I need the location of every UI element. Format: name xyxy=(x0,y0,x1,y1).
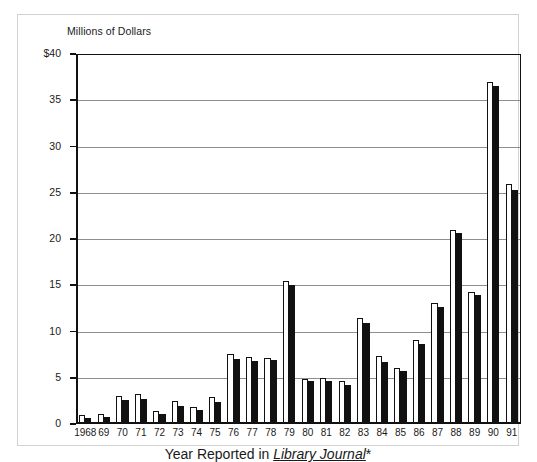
x-axis-tick-label: 81 xyxy=(321,427,332,438)
y-axis-tick xyxy=(70,53,76,55)
y-axis-tick-label: 20 xyxy=(49,232,61,244)
x-axis-tick-label: 83 xyxy=(358,427,369,438)
bar-group xyxy=(116,396,128,424)
x-axis-tick-label: 70 xyxy=(117,427,128,438)
y-axis-tick-label: 0 xyxy=(55,417,61,429)
bar-dark xyxy=(419,344,425,424)
bar-group xyxy=(413,340,425,424)
bar-group xyxy=(450,230,462,424)
bar-dark xyxy=(122,400,128,424)
bar-group xyxy=(209,397,221,424)
y-axis-tick xyxy=(70,238,76,240)
bar-group xyxy=(246,357,258,424)
bar-dark xyxy=(326,381,332,424)
bar-dark xyxy=(252,361,258,424)
x-axis-title-suffix: * xyxy=(366,446,371,462)
y-axis-tick xyxy=(70,377,76,379)
x-axis-tick-label: 80 xyxy=(302,427,313,438)
x-axis-tick-label: 1968 xyxy=(74,427,96,438)
bar-group xyxy=(172,401,184,424)
bar-group xyxy=(264,358,276,424)
bar-dark xyxy=(512,190,518,424)
bar-group xyxy=(227,354,239,424)
y-axis-tick xyxy=(70,146,76,148)
x-axis-tick-label: 91 xyxy=(506,427,517,438)
x-axis-tick-label: 88 xyxy=(451,427,462,438)
bar-dark xyxy=(382,362,388,424)
x-axis-tick-label: 74 xyxy=(191,427,202,438)
x-axis-title-journal: Library Journal xyxy=(273,446,366,462)
x-axis-tick-label: 77 xyxy=(247,427,258,438)
bar-group xyxy=(339,381,351,424)
x-axis-title: Year Reported in Library Journal* xyxy=(18,446,518,462)
x-axis-tick-labels: 1968697071727374757677787980818283848586… xyxy=(76,427,521,443)
x-axis-tick-label: 71 xyxy=(135,427,146,438)
y-axis-tick xyxy=(70,192,76,194)
y-axis-title: Millions of Dollars xyxy=(67,25,151,37)
bar-group xyxy=(320,378,332,424)
x-axis-tick-label: 73 xyxy=(172,427,183,438)
bar-group xyxy=(394,368,406,424)
bar-group xyxy=(487,82,499,424)
bar-series-container xyxy=(76,54,521,424)
x-axis-tick-label: 75 xyxy=(210,427,221,438)
bar-group xyxy=(376,356,388,424)
y-axis-tick-label: 25 xyxy=(49,186,61,198)
x-axis-tick-label: 90 xyxy=(488,427,499,438)
x-axis-tick-label: 69 xyxy=(98,427,109,438)
bar-group xyxy=(357,318,369,424)
bar-group xyxy=(431,303,443,424)
bar-dark xyxy=(289,285,295,424)
plot-area xyxy=(76,54,521,424)
bar-dark xyxy=(308,381,314,424)
x-axis-tick-label: 79 xyxy=(284,427,295,438)
bar-dark xyxy=(271,360,277,424)
bar-dark xyxy=(475,295,481,424)
y-axis-tick xyxy=(70,331,76,333)
x-axis-tick-label: 86 xyxy=(413,427,424,438)
bar-group xyxy=(506,184,518,425)
bar-dark xyxy=(363,323,369,424)
bar-dark xyxy=(345,385,351,424)
bar-group xyxy=(283,281,295,424)
y-axis-tick-label: 5 xyxy=(55,371,61,383)
x-axis-tick-label: 82 xyxy=(339,427,350,438)
chart-figure: Millions of Dollars 05101520253035$40 19… xyxy=(17,14,519,446)
x-axis-tick-label: 78 xyxy=(265,427,276,438)
y-axis-tick xyxy=(70,284,76,286)
x-axis-tick-label: 76 xyxy=(228,427,239,438)
y-axis-tick-label: $40 xyxy=(43,47,61,59)
x-axis-tick-label: 89 xyxy=(469,427,480,438)
x-axis-tick-label: 84 xyxy=(376,427,387,438)
x-axis-line xyxy=(76,422,521,424)
bar-dark xyxy=(234,359,240,424)
bar-dark xyxy=(438,307,444,424)
x-axis-tick-label: 87 xyxy=(432,427,443,438)
bar-dark xyxy=(141,399,147,424)
y-axis-tick-label: 30 xyxy=(49,140,61,152)
y-axis-tick-label: 35 xyxy=(49,93,61,105)
bar-dark xyxy=(456,233,462,424)
y-axis-tick-label: 15 xyxy=(49,278,61,290)
bar-group xyxy=(468,292,480,424)
x-axis-tick-label: 85 xyxy=(395,427,406,438)
y-axis-tick xyxy=(70,99,76,101)
bar-dark xyxy=(400,371,406,424)
bar-group xyxy=(302,379,314,424)
x-axis-tick-label: 72 xyxy=(154,427,165,438)
x-axis-title-prefix: Year Reported in xyxy=(165,446,273,462)
y-axis-line xyxy=(76,54,78,424)
y-axis-tick-label: 10 xyxy=(49,325,61,337)
bar-dark xyxy=(215,402,221,424)
y-axis-tick-labels: 05101520253035$40 xyxy=(18,54,70,424)
bar-dark xyxy=(493,86,499,424)
bar-group xyxy=(135,394,147,424)
